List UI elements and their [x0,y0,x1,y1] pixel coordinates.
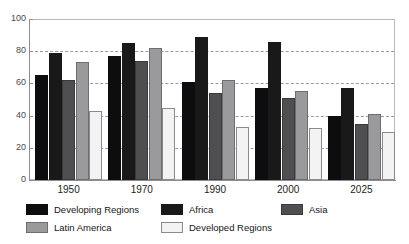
legend-item-africa[interactable]: Africa [161,202,213,216]
legend-label-developed-regions: Developed Regions [189,222,272,233]
bar-developed-regions-2025 [382,132,395,180]
y-axis-label-100: 100 [2,14,26,23]
bar-developing-regions-1990 [182,82,195,180]
legend-item-asia[interactable]: Asia [281,202,327,216]
y-axis-label-wrap-0: 0 [0,175,26,184]
y-axis-label-80: 80 [2,46,26,55]
legend-label-africa: Africa [189,204,213,215]
bar-latin-america-2000 [295,91,308,180]
bar-africa-1950 [49,53,62,180]
legend-item-developing-regions[interactable]: Developing Regions [26,202,139,216]
y-axis-label-wrap-60: 60 [0,78,26,87]
bar-developed-regions-2000 [309,128,322,180]
legend-row-1: Developing RegionsAfricaAsia [26,202,396,217]
y-axis-label-20: 20 [2,143,26,152]
x-axis-label-1950: 1950 [39,184,99,195]
chart-legend: Developing RegionsAfricaAsiaLatin Americ… [26,202,396,238]
bar-developed-regions-1950 [89,111,102,180]
y-axis-label-wrap-40: 40 [0,111,26,120]
bar-group-2000 [255,19,322,180]
clipped-caption-sliver [14,0,394,7]
bar-developed-regions-1990 [236,127,249,180]
bar-developing-regions-2000 [255,88,268,180]
legend-swatch-africa [161,204,183,215]
bar-group-1970 [108,19,175,180]
bar-africa-1990 [195,37,208,180]
bar-asia-2025 [355,124,368,180]
legend-label-asia: Asia [309,204,327,215]
bar-developing-regions-1950 [35,75,48,180]
y-axis-label-0: 0 [2,175,26,184]
legend-swatch-latin-america [26,222,48,233]
bar-latin-america-1950 [76,62,89,180]
x-axis-label-1970: 1970 [112,184,172,195]
bar-latin-america-1970 [149,48,162,180]
y-axis-label-wrap-80: 80 [0,46,26,55]
y-axis-label-wrap-100: 100 [0,14,26,23]
bar-asia-1970 [135,61,148,180]
y-tick-mark-0 [29,180,33,181]
bar-asia-1950 [62,80,75,180]
bar-developing-regions-2025 [328,116,341,180]
bar-africa-2000 [268,42,281,180]
y-axis-label-40: 40 [2,111,26,120]
legend-label-developing-regions: Developing Regions [54,204,139,215]
bar-asia-1990 [209,93,222,180]
legend-label-latin-america: Latin America [54,222,112,233]
bar-group-2025 [328,19,395,180]
x-axis-label-2000: 2000 [258,184,318,195]
x-axis-line [29,180,396,181]
bar-developing-regions-1970 [108,56,121,180]
legend-swatch-developing-regions [26,204,48,215]
bar-group-1950 [35,19,102,180]
y-axis-label-60: 60 [2,78,26,87]
x-axis-label-1990: 1990 [185,184,245,195]
legend-swatch-asia [281,204,303,215]
bar-group-1990 [182,19,249,180]
y-axis-label-wrap-20: 20 [0,143,26,152]
bars-layer [29,19,395,180]
legend-swatch-developed-regions [161,222,183,233]
legend-item-latin-america[interactable]: Latin America [26,220,112,234]
bar-africa-2025 [341,88,354,180]
bar-chart: 020406080100 19501970199020002025 Develo… [0,0,409,244]
bar-developed-regions-1970 [162,108,175,180]
legend-item-developed-regions[interactable]: Developed Regions [161,220,272,234]
legend-row-2: Latin AmericaDeveloped Regions [26,220,396,235]
bar-asia-2000 [282,98,295,180]
bar-latin-america-1990 [222,80,235,180]
bar-africa-1970 [122,43,135,180]
x-axis-label-2025: 2025 [331,184,391,195]
bar-latin-america-2025 [368,114,381,180]
